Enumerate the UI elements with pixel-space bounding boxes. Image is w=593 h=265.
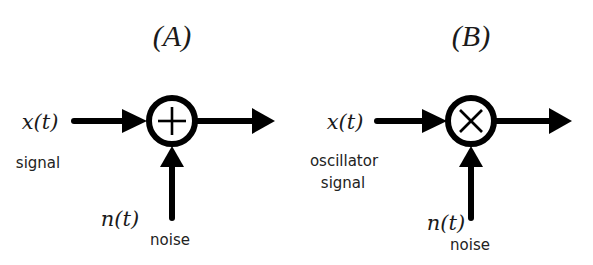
panel-a-noise-arrow bbox=[160, 146, 184, 218]
panel-b-input-label-line2: signal bbox=[321, 174, 365, 192]
panel-b-noise-symbol: n(t) bbox=[427, 211, 465, 235]
panel-a-additive-noise: (A) x(t) signal n(t) noise bbox=[16, 19, 275, 249]
panel-b-noise-label: noise bbox=[450, 236, 490, 254]
panel-a-input-arrow bbox=[74, 109, 147, 133]
panel-b-noise-arrow bbox=[459, 146, 483, 218]
panel-a-summing-junction bbox=[149, 98, 195, 144]
panel-b-title: (B) bbox=[452, 19, 490, 53]
panel-a-input-symbol: x(t) bbox=[22, 110, 59, 134]
panel-a-input-label: signal bbox=[16, 154, 60, 172]
panel-b-input-label-line1: oscillator bbox=[310, 152, 379, 170]
panel-b-output-arrow bbox=[495, 108, 572, 134]
panel-b-input-symbol: x(t) bbox=[327, 110, 364, 134]
noise-model-diagram: (A) x(t) signal n(t) noise bbox=[0, 0, 593, 265]
panel-b-input-arrow bbox=[377, 109, 447, 133]
panel-a-noise-label: noise bbox=[150, 231, 190, 249]
panel-a-title: (A) bbox=[153, 19, 191, 53]
panel-a-output-arrow bbox=[196, 108, 275, 134]
panel-b-mixer-junction bbox=[448, 98, 494, 144]
panel-b-multiplicative-noise: (B) x(t) oscillator signal n(t) n bbox=[310, 19, 572, 254]
panel-a-noise-symbol: n(t) bbox=[101, 207, 139, 231]
